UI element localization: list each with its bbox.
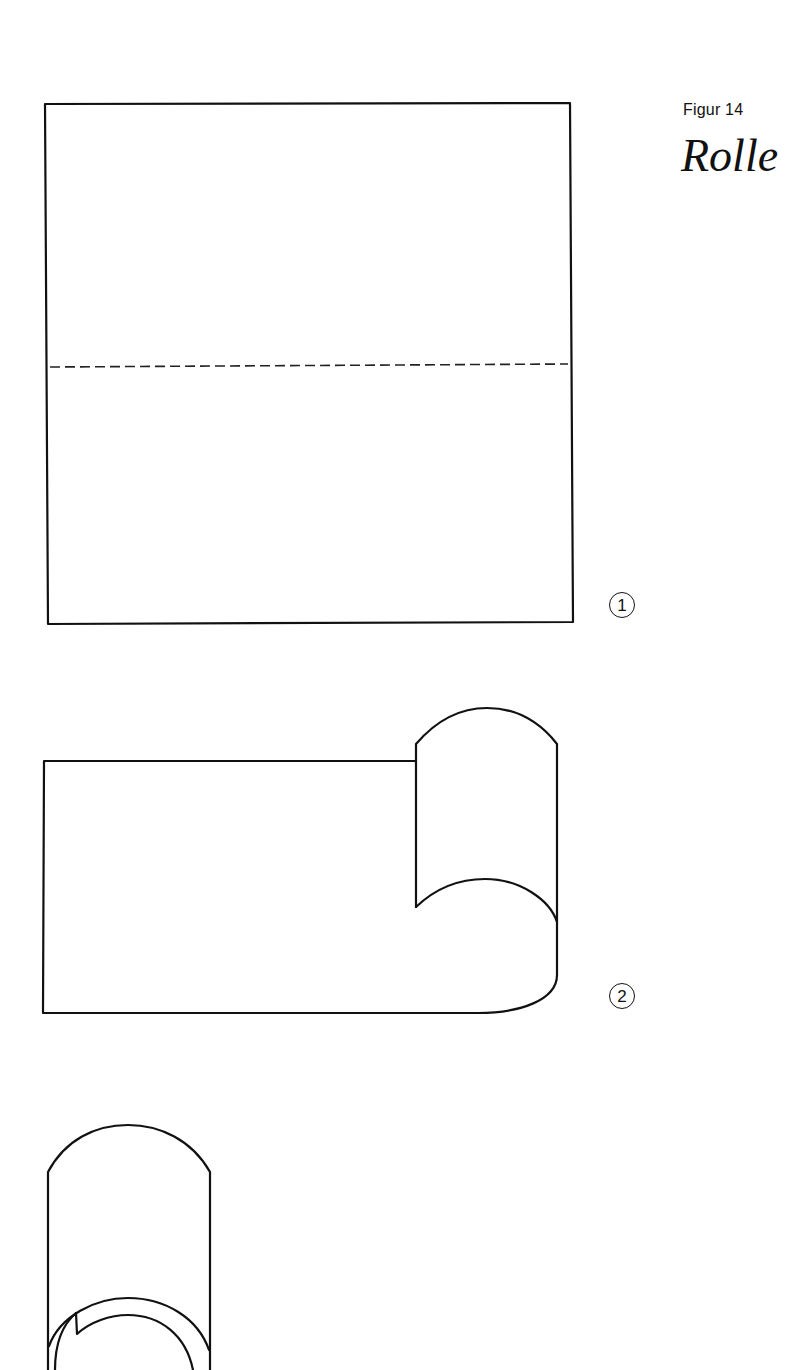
step-1-sheet <box>45 103 573 624</box>
dashed-fold-line <box>50 364 568 367</box>
roll-diagram <box>0 0 795 1370</box>
step-2-number: 2 <box>617 988 626 1005</box>
roll-cylinder-outline <box>416 708 557 1013</box>
step-2-marker: 2 <box>609 983 635 1009</box>
step-1-number: 1 <box>617 597 626 614</box>
roll-outer-ring <box>49 1298 209 1350</box>
step-3-finished-roll <box>48 1125 210 1370</box>
roll-inner-ring <box>76 1313 193 1370</box>
square-sheet <box>45 103 573 624</box>
roll-outer-outline <box>48 1125 210 1370</box>
step-1-marker: 1 <box>609 592 635 618</box>
flat-sheet-outline <box>43 761 478 1013</box>
roll-inner-curl <box>416 879 557 922</box>
figure-page: Figur 14 Rolle 1 2 <box>0 0 795 1370</box>
step-2-curling-sheet <box>43 708 557 1013</box>
